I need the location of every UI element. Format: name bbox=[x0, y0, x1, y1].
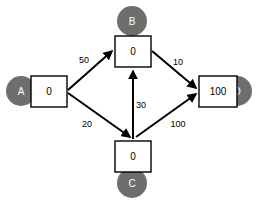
edge-weight-c-b: 30 bbox=[136, 100, 146, 110]
edge-weight-b-d: 10 bbox=[173, 57, 183, 67]
node-a[interactable]: A0 bbox=[6, 76, 67, 107]
node-b[interactable]: B0 bbox=[115, 6, 151, 67]
edge-a-c bbox=[68, 93, 130, 137]
nodes-layer: A0B0C0D100 bbox=[6, 6, 252, 198]
node-d[interactable]: D100 bbox=[199, 76, 252, 107]
edge-weight-a-b: 50 bbox=[79, 55, 89, 65]
edge-weight-c-d: 100 bbox=[170, 119, 185, 129]
graph-svg: A0B0C0D100 50203010100 bbox=[0, 0, 259, 204]
node-value-c: 0 bbox=[130, 151, 136, 162]
node-value-d: 100 bbox=[210, 86, 227, 97]
edge-a-b bbox=[68, 51, 112, 90]
node-label-b: B bbox=[129, 16, 136, 27]
node-value-b: 0 bbox=[130, 46, 136, 57]
node-label-a: A bbox=[18, 86, 25, 97]
node-value-a: 0 bbox=[46, 86, 52, 97]
diagram-canvas: A0B0C0D100 50203010100 bbox=[0, 0, 259, 204]
edge-weight-a-c: 20 bbox=[82, 119, 92, 129]
node-c[interactable]: C0 bbox=[115, 141, 151, 198]
node-label-c: C bbox=[128, 178, 135, 189]
